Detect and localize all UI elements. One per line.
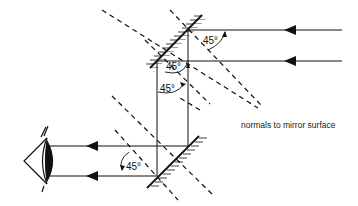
angle-label: 45° [166, 61, 181, 72]
arrowhead-icon [120, 165, 125, 171]
angle-label: 45° [126, 161, 141, 172]
periscope-diagram: 45° 45° 45° 45° normals to mirror surfac… [0, 0, 358, 206]
outgoing-rays [50, 146, 188, 176]
angle-label: 45° [203, 35, 218, 46]
normals-caption: normals to mirror surface [241, 120, 336, 130]
arrowhead-icon [284, 25, 296, 35]
angle-label: 45° [160, 83, 175, 94]
arrowhead-icon [180, 82, 186, 87]
arrowhead-icon [86, 141, 98, 151]
arrowhead-icon [86, 171, 98, 181]
angle-arcs [121, 32, 225, 170]
arrowhead-icon [222, 31, 227, 37]
arrowhead-icon [284, 56, 296, 66]
eye-icon [24, 126, 53, 192]
